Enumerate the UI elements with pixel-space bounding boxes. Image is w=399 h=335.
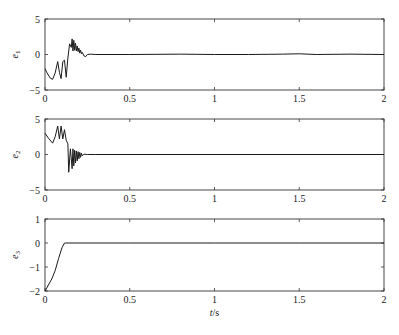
x-tick-label: 2 [382,93,387,104]
y-tick-label: −2 [29,286,40,297]
y-axis-label: e1 [9,50,22,58]
y-tick-label: 0 [35,149,40,160]
subplot-e2: 00.511.52−505e2 [9,114,387,205]
y-tick-label: 0 [35,238,40,249]
x-axis-label: t/s [210,307,220,318]
x-tick-label: 1.5 [293,93,306,104]
x-tick-label: 1 [212,193,217,204]
subplot-e3: 00.511.52−2−101e3 [9,214,387,306]
y-tick-label: 5 [35,114,40,125]
x-tick-label: 2 [382,193,387,204]
y-axis-label-subscript: 3 [14,251,22,255]
x-tick-label: 2 [382,294,387,305]
series-e3 [45,243,384,291]
x-tick-label: 0.5 [124,93,137,104]
y-tick-label: −5 [29,185,40,196]
y-tick-label: 0 [35,49,40,60]
x-tick-label: 1.5 [293,294,306,305]
x-tick-label: 1 [212,93,217,104]
x-axis-label-unit: /s [213,307,220,318]
y-axis-label: e2 [9,150,22,158]
y-tick-label: 5 [35,14,40,25]
y-tick-label: −1 [29,262,40,273]
x-tick-label: 1 [212,294,217,305]
subplot-e1: 00.511.52−505e1 [9,14,387,105]
y-tick-label: 1 [35,214,40,225]
x-tick-label: 0.5 [124,294,137,305]
plot-frame [45,219,384,291]
y-tick-label: −5 [29,85,40,96]
x-tick-label: 1.5 [293,193,306,204]
figure: 00.511.52−505e1 00.511.52−505e2 00.511.5… [0,0,399,335]
series-e2 [45,126,384,172]
y-axis-label-subscript: 1 [14,50,22,54]
x-tick-label: 0.5 [124,193,137,204]
y-axis-label-subscript: 2 [14,150,22,154]
x-tick-label: 0 [43,294,48,305]
y-axis-label: e3 [9,251,22,259]
series-e1 [45,39,384,79]
x-tick-label: 0 [43,93,48,104]
x-tick-label: 0 [43,193,48,204]
